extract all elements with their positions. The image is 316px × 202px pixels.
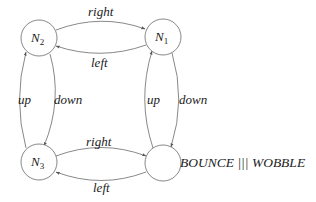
label-right-up: up bbox=[147, 92, 161, 107]
edge-n2-to-n1-right bbox=[56, 21, 145, 30]
label-left-down: down bbox=[54, 92, 82, 107]
node-start bbox=[145, 145, 181, 181]
node-n1: N1 bbox=[145, 19, 181, 55]
label-bottom-left: left bbox=[93, 180, 110, 195]
label-left-up: up bbox=[18, 92, 32, 107]
edge-n1-to-n2-left bbox=[56, 45, 146, 53]
label-top-right: right bbox=[88, 4, 114, 19]
edge-n1-to-start-down bbox=[171, 53, 179, 147]
state-diagram: N2 N1 N3 right left up down up down righ… bbox=[0, 0, 316, 202]
label-bottom-right: right bbox=[86, 134, 112, 149]
node-n3: N3 bbox=[21, 144, 57, 180]
process-label: BOUNCE ||| WOBBLE bbox=[180, 155, 306, 170]
label-right-down: down bbox=[179, 92, 207, 107]
node-n2: N2 bbox=[21, 20, 57, 56]
label-top-left: left bbox=[91, 55, 108, 70]
